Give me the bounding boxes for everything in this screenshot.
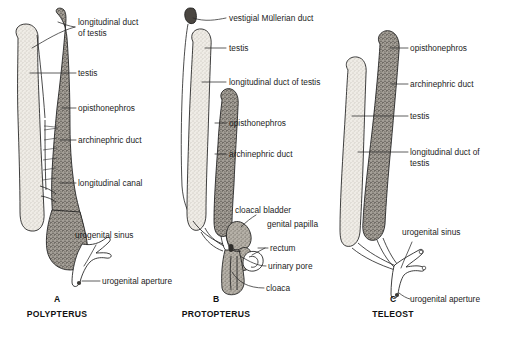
panel-name-c: TELEOST — [372, 309, 414, 319]
label-longitudinal-duct-a-line2: of testis — [78, 28, 107, 38]
label-urinary-pore-b: urinary pore — [268, 261, 313, 271]
label-vestigial-mullerian-duct-b: vestigial Müllerian duct — [229, 13, 314, 23]
label-longitudinal-duct-c-line2: testis — [410, 158, 430, 168]
panel-letter-a: A — [54, 294, 60, 304]
label-archinephric-duct-b: archinephric duct — [229, 149, 293, 159]
panel-letter-b: B — [213, 294, 219, 304]
panel-letter-c: C — [390, 294, 396, 304]
label-testis-c: testis — [410, 111, 430, 121]
label-urogenital-aperture-a: urogenital aperture — [102, 276, 172, 286]
aperture-dot-a — [77, 281, 81, 285]
label-opisthonephros-c: opisthonephros — [410, 43, 467, 53]
sinus-tip-c — [419, 250, 423, 254]
panel-name-a: POLYPTERUS — [27, 309, 87, 319]
label-genital-papilla-b: genital papilla — [267, 219, 318, 229]
sinus-tip-c2 — [422, 266, 426, 270]
label-opisthonephros-b: opisthonephros — [229, 118, 286, 128]
panel-name-b: PROTOPTERUS — [182, 309, 251, 319]
label-urogenital-sinus-c: urogenital sinus — [402, 227, 460, 237]
anatomy-figure: longitudinal duct of testis testis opist… — [0, 0, 508, 337]
label-cloaca-b: cloaca — [266, 283, 290, 293]
label-longitudinal-canal-a: longitudinal canal — [78, 178, 143, 188]
label-testis-b: testis — [229, 43, 249, 53]
figure-canvas: longitudinal duct of testis testis opist… — [0, 0, 508, 337]
pore-opening-b — [228, 244, 233, 252]
organ-mullerian-bulb-b — [185, 8, 197, 24]
label-longitudinal-duct-of-testis-b: longitudinal duct of testis — [229, 77, 320, 87]
label-archinephric-duct-c: archinephric duct — [410, 79, 474, 89]
label-testis-a: testis — [78, 68, 98, 78]
label-longitudinal-duct-c-line1: longitudinal duct of — [410, 147, 480, 157]
label-urogenital-sinus-a: urogenital sinus — [75, 230, 133, 240]
label-cloacal-bladder-b: cloacal bladder — [235, 205, 291, 215]
label-longitudinal-duct-a-line1: longitudinal duct — [78, 17, 139, 27]
label-rectum-b: rectum — [270, 243, 296, 253]
label-urogenital-aperture-c: urogenital aperture — [410, 294, 480, 304]
label-archinephric-duct-a: archinephric duct — [78, 135, 142, 145]
label-opisthonephros-a: opisthonephros — [78, 103, 135, 113]
